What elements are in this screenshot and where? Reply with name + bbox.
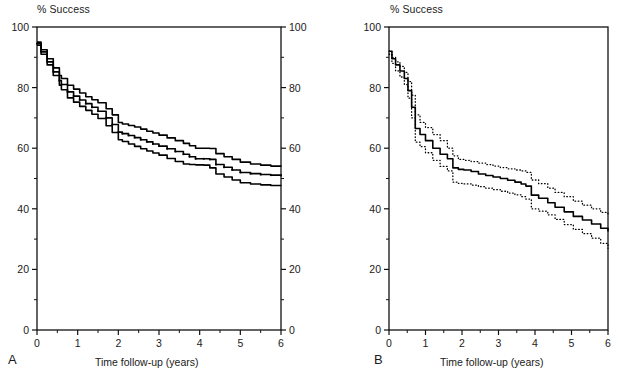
x-tick-label: 6 <box>605 337 611 349</box>
series-marker <box>73 95 75 97</box>
x-tick-label: 0 <box>34 337 40 349</box>
x-tick-label: 6 <box>278 337 284 349</box>
series-line-2 <box>37 45 281 186</box>
series-marker <box>146 141 148 143</box>
y-tick-label-left: 0 <box>23 324 29 336</box>
series-marker <box>166 148 168 150</box>
panel-b-letter: B <box>374 352 383 367</box>
series-marker <box>97 110 99 112</box>
series-marker <box>215 164 217 166</box>
y-tick-label-right: 20 <box>289 263 301 275</box>
y-tick-label-left: 60 <box>17 142 29 154</box>
series-line-2 <box>389 54 608 248</box>
x-tick-label: 2 <box>115 337 121 349</box>
x-tick-label: 2 <box>459 337 465 349</box>
y-tick-label-right: 60 <box>289 142 301 154</box>
series-marker <box>280 175 282 177</box>
series-line-0 <box>389 51 608 215</box>
panel-a-plot: 0123456002020404060608080100100 <box>0 0 312 376</box>
series-marker <box>140 139 142 141</box>
x-tick-label: 5 <box>237 337 243 349</box>
series-line-1 <box>389 51 608 231</box>
series-marker <box>134 137 136 139</box>
x-tick-label: 4 <box>532 337 538 349</box>
panel-a-x-axis-title: Time follow-up (years) <box>95 356 198 368</box>
series-marker <box>122 133 124 135</box>
series-marker <box>260 174 262 176</box>
series-line-0 <box>37 42 281 166</box>
plot-frame <box>389 27 608 330</box>
plot-frame <box>37 27 281 330</box>
y-tick-label-left: 80 <box>369 82 381 94</box>
x-tick-label: 3 <box>156 337 162 349</box>
series-marker <box>36 43 38 45</box>
series-marker <box>270 174 272 176</box>
x-tick-label: 0 <box>386 337 392 349</box>
series-marker <box>174 151 176 153</box>
x-tick-label: 5 <box>569 337 575 349</box>
x-tick-label: 3 <box>496 337 502 349</box>
y-tick-label-left: 0 <box>375 324 381 336</box>
series-marker <box>239 172 241 174</box>
figure-container: % Success 012345600202040406060808010010… <box>0 0 624 376</box>
series-marker <box>209 159 211 161</box>
series-marker <box>223 166 225 168</box>
series-marker <box>128 135 130 137</box>
series-marker <box>250 173 252 175</box>
x-tick-label: 1 <box>75 337 81 349</box>
series-marker <box>79 99 81 101</box>
series-marker <box>195 158 197 160</box>
y-tick-label-left: 60 <box>369 142 381 154</box>
y-tick-label-left: 40 <box>369 203 381 215</box>
y-tick-label-left: 20 <box>17 263 29 275</box>
series-marker <box>91 106 93 108</box>
series-marker <box>183 153 185 155</box>
series-marker <box>231 169 233 171</box>
y-tick-label-left: 40 <box>17 203 29 215</box>
y-tick-label-left: 100 <box>363 21 381 33</box>
y-tick-label-right: 40 <box>289 203 301 215</box>
y-tick-label-left: 80 <box>17 82 29 94</box>
y-tick-label-left: 100 <box>11 21 29 33</box>
y-tick-label-left: 20 <box>369 263 381 275</box>
series-marker <box>189 156 191 158</box>
panel-a: % Success 012345600202040406060808010010… <box>0 0 312 376</box>
x-tick-label: 4 <box>197 337 203 349</box>
panel-b-x-axis-title: Time follow-up (years) <box>440 356 543 368</box>
series-marker <box>152 143 154 145</box>
panel-a-letter: A <box>8 352 17 367</box>
series-marker <box>158 145 160 147</box>
x-tick-label: 1 <box>423 337 429 349</box>
y-tick-label-right: 0 <box>289 324 295 336</box>
panel-b-plot: 0123456020406080100 <box>312 0 624 376</box>
y-tick-label-right: 100 <box>289 21 307 33</box>
panel-b: % Success 0123456020406080100 B Time fol… <box>312 0 624 376</box>
y-tick-label-right: 80 <box>289 82 301 94</box>
series-marker <box>203 158 205 160</box>
series-marker <box>85 103 87 105</box>
